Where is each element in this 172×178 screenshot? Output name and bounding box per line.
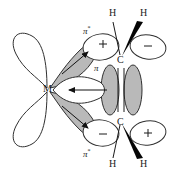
h-bottom-right-label: H xyxy=(140,159,147,169)
h-top-right-label: H xyxy=(140,8,147,18)
metal-d-orbital-empty-lobes xyxy=(13,33,47,147)
pi-star-bottom-label: π* xyxy=(83,148,91,159)
pi-star-top-label: π* xyxy=(83,25,91,36)
carbon-bottom-label: C xyxy=(117,117,124,127)
metal-atom-label: M xyxy=(43,84,52,94)
pi-star-top-superscript: * xyxy=(88,25,91,31)
pi-label: π xyxy=(94,64,99,73)
alkene-pi-orbital-lobes xyxy=(101,65,142,115)
h-top-left-label: H xyxy=(109,8,116,18)
pi-star-bottom-superscript: * xyxy=(88,148,91,154)
h-bottom-left-label: H xyxy=(109,159,116,169)
metal-alkene-bonding-diagram: M C C H H H H π* π* π xyxy=(0,0,172,178)
carbon-top-label: C xyxy=(117,55,124,65)
